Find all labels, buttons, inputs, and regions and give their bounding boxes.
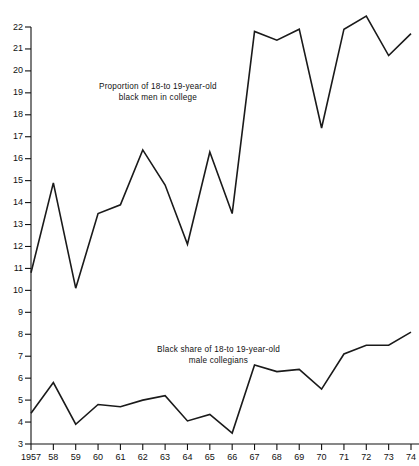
chart-axes <box>25 27 419 450</box>
series-label-line1: Black share of 18-to 19-year-old <box>157 344 280 355</box>
y-tick-label: 21 <box>7 44 23 53</box>
chart-series-group <box>31 16 411 433</box>
y-tick-label: 3 <box>7 440 23 449</box>
y-tick-label: 14 <box>7 198 23 207</box>
y-tick-label: 11 <box>7 264 23 273</box>
series-line-0 <box>31 16 411 288</box>
y-tick-label: 10 <box>7 286 23 295</box>
y-tick-label: 20 <box>7 66 23 75</box>
y-tick-label: 5 <box>7 396 23 405</box>
x-tick-label: 74 <box>397 453 419 462</box>
y-tick-label: 4 <box>7 418 23 427</box>
y-tick-label: 16 <box>7 154 23 163</box>
y-tick-label: 22 <box>7 23 23 32</box>
y-tick-label: 19 <box>7 88 23 97</box>
y-tick-label: 13 <box>7 220 23 229</box>
y-tick-label: 8 <box>7 330 23 339</box>
series-label-line2: black men in college <box>99 92 217 103</box>
chart-plot-area <box>0 0 419 466</box>
y-tick-label: 15 <box>7 176 23 185</box>
series-label-black-men-in-college: Proportion of 18-to 19-year-old black me… <box>99 81 217 103</box>
y-tick-label: 18 <box>7 110 23 119</box>
line-chart: 345678910111213141516171819202122 195758… <box>0 0 419 466</box>
y-tick-label: 6 <box>7 374 23 383</box>
y-tick-label: 12 <box>7 242 23 251</box>
series-label-black-share-male-collegians: Black share of 18-to 19-year-old male co… <box>157 344 280 366</box>
series-label-line1: Proportion of 18-to 19-year-old <box>99 81 217 92</box>
series-label-line2: male collegians <box>157 355 280 366</box>
y-tick-label: 7 <box>7 352 23 361</box>
y-tick-label: 17 <box>7 132 23 141</box>
y-tick-label: 9 <box>7 308 23 317</box>
